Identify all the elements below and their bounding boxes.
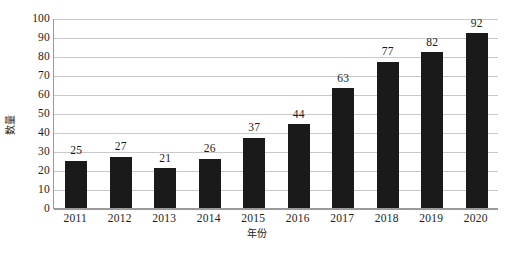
- y-tick-label: 100: [20, 13, 50, 25]
- x-tick-label: 2014: [197, 213, 221, 225]
- bar[interactable]: [199, 159, 221, 208]
- bar-slot: 26: [188, 19, 233, 208]
- x-tick-label: 2015: [241, 213, 265, 225]
- bar-slot: 92: [455, 19, 500, 208]
- y-axis-title: 数量: [2, 95, 20, 155]
- bar-slot: 44: [277, 19, 322, 208]
- bar-value-label: 21: [159, 153, 171, 165]
- bar[interactable]: [288, 124, 310, 208]
- y-tick-label: 30: [20, 146, 50, 158]
- x-tick-label: 2011: [64, 213, 87, 225]
- plot-area: 25272126374463778292: [53, 19, 498, 209]
- bar-value-label: 82: [426, 37, 438, 49]
- y-tick-label: 20: [20, 165, 50, 177]
- bar-value-label: 25: [70, 145, 82, 157]
- x-tick-label: 2016: [286, 213, 310, 225]
- x-tick-label: 2018: [375, 213, 399, 225]
- bar[interactable]: [243, 138, 265, 208]
- bar-slot: 63: [321, 19, 366, 208]
- bar-value-label: 37: [248, 122, 260, 134]
- x-tick-label: 2013: [152, 213, 176, 225]
- bar[interactable]: [466, 33, 488, 208]
- bar[interactable]: [65, 161, 87, 209]
- y-tick-label: 60: [20, 89, 50, 101]
- bar[interactable]: [421, 52, 443, 208]
- y-tick-label: 90: [20, 32, 50, 44]
- x-axis-title-text: 年份: [247, 228, 267, 239]
- x-tick-label: 2012: [108, 213, 132, 225]
- bar-chart: 数量 0102030405060708090100 25272126374463…: [0, 0, 513, 255]
- x-tick-label: 2020: [464, 213, 488, 225]
- bar-value-label: 44: [293, 109, 305, 121]
- bar[interactable]: [154, 168, 176, 208]
- bar-value-label: 92: [471, 18, 483, 30]
- bar-value-label: 77: [382, 46, 394, 58]
- bar-slot: 27: [99, 19, 144, 208]
- bar-value-label: 27: [115, 141, 127, 153]
- y-axis-title-text: 数量: [6, 115, 17, 135]
- x-axis-title: 年份: [0, 229, 513, 239]
- bar-slot: 82: [410, 19, 455, 208]
- bar-value-label: 63: [337, 73, 349, 85]
- bar-slot: 21: [143, 19, 188, 208]
- x-tick-label: 2019: [419, 213, 443, 225]
- bar[interactable]: [332, 88, 354, 208]
- y-tick-label: 40: [20, 127, 50, 139]
- bar-slot: 37: [232, 19, 277, 208]
- bar[interactable]: [110, 157, 132, 208]
- y-tick-label: 0: [20, 203, 50, 215]
- y-tick-label: 10: [20, 184, 50, 196]
- y-tick-label: 70: [20, 70, 50, 82]
- y-tick-label: 80: [20, 51, 50, 63]
- gridline-0: [54, 209, 498, 210]
- bar[interactable]: [377, 62, 399, 208]
- bar-slot: 77: [366, 19, 411, 208]
- y-tick-label: 50: [20, 108, 50, 120]
- bars-layer: 25272126374463778292: [54, 19, 498, 208]
- bar-value-label: 26: [204, 143, 216, 155]
- bar-slot: 25: [54, 19, 99, 208]
- x-tick-label: 2017: [330, 213, 354, 225]
- y-axis-tick-labels: 0102030405060708090100: [20, 19, 50, 209]
